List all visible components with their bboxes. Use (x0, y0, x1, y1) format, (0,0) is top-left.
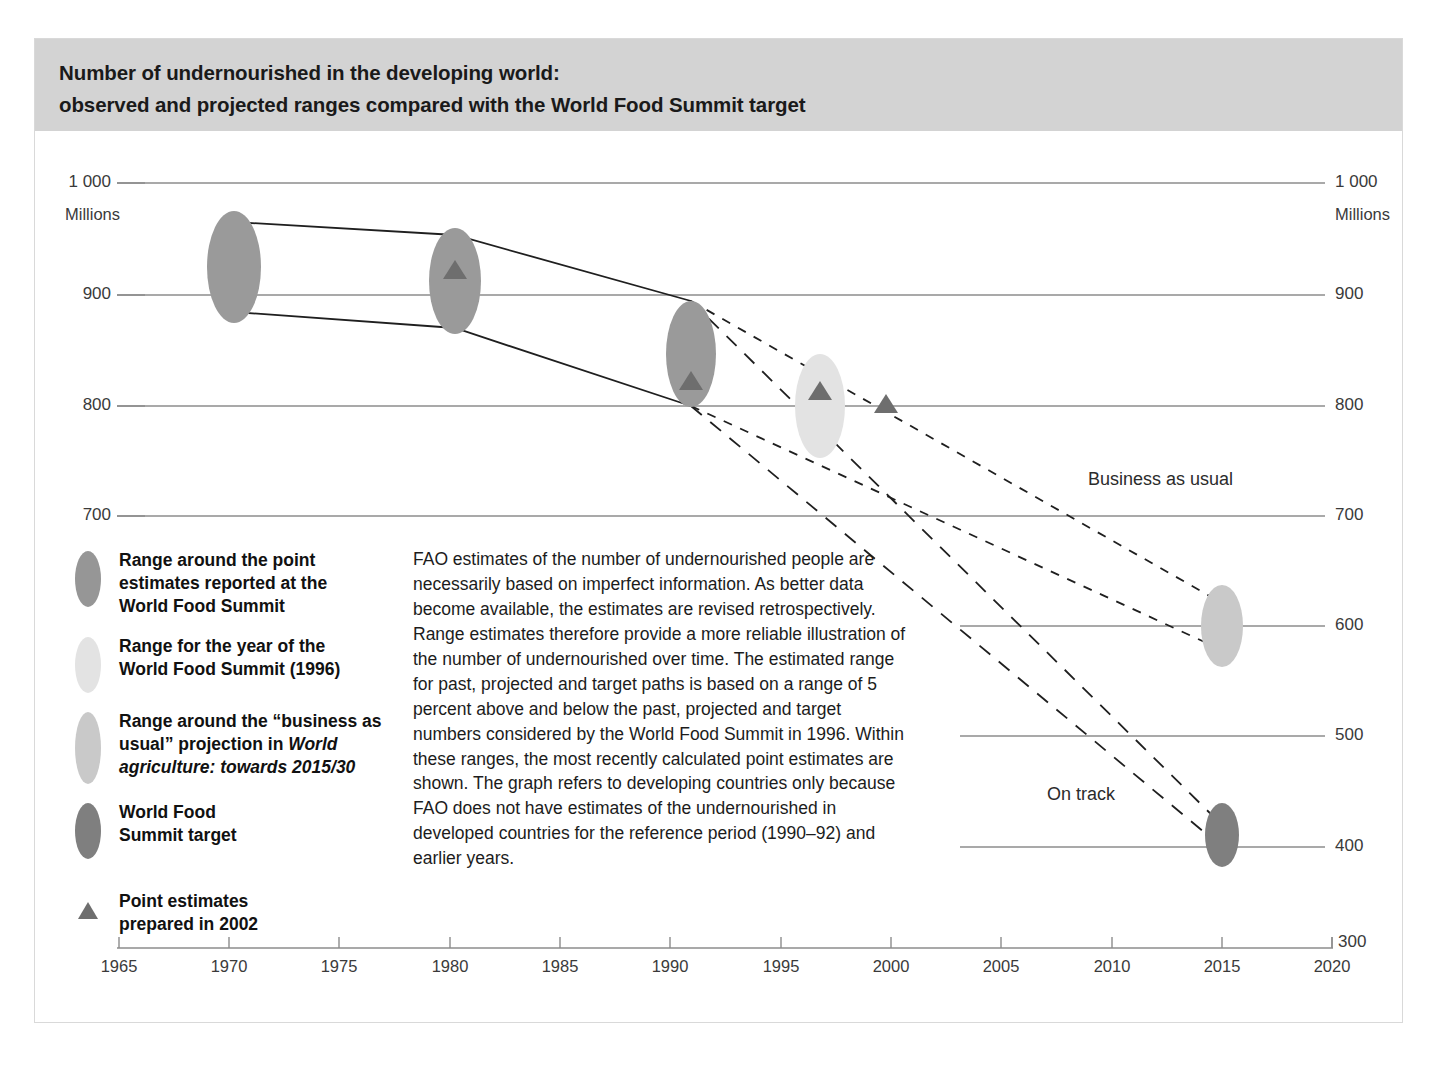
x-axis-label-1995: 1995 (746, 957, 816, 976)
chart-explanatory-paragraph: FAO estimates of the number of undernour… (413, 547, 913, 871)
range-ellipse-2015-business-as-usual (1201, 585, 1243, 667)
legend-item-world-food-summit-target: World Food Summit target (75, 801, 405, 859)
legend-item-range-wfs-year-1996: Range for the year of the World Food Sum… (75, 635, 405, 693)
legend-label-line: Range around the point (119, 549, 327, 572)
x-axis-label-2020: 2020 (1297, 957, 1367, 976)
y-axis-label-right-400: 400 (1335, 836, 1363, 856)
y-axis-label-right-800: 800 (1335, 395, 1363, 415)
chart-figure: Number of undernourished in the developi… (34, 38, 1403, 1023)
legend-label-line: Point estimates (119, 890, 258, 913)
x-axis-label-1980: 1980 (415, 957, 485, 976)
y-axis-unit-left: Millions (65, 205, 120, 224)
legend-item-point-estimates-2002: Point estimates prepared in 2002 (75, 876, 405, 936)
x-axis-label-2005: 2005 (966, 957, 1036, 976)
legend-swatch-range-business-as-usual (75, 712, 101, 784)
annotation-on-track: On track (1047, 784, 1115, 805)
x-axis-label-2010: 2010 (1077, 957, 1147, 976)
legend-item-range-wfs-point-estimates: Range around the point estimates reporte… (75, 549, 405, 618)
left-tick-leaders (117, 183, 145, 516)
y-axis-label-right-300: 300 (1338, 932, 1366, 952)
y-axis-label-left-700: 700 (53, 505, 111, 525)
legend-label-line: estimates reported at the (119, 572, 327, 595)
chart-explanatory-text: FAO estimates of the number of undernour… (413, 547, 913, 871)
point-estimate-marker-1999 (874, 394, 898, 413)
range-ellipse-1996-wfs-year (795, 354, 845, 458)
range-ellipse-1991 (666, 301, 716, 407)
x-axis-label-1990: 1990 (635, 957, 705, 976)
legend-label-line: World Food (119, 801, 237, 824)
triangle-marker-icon (75, 878, 101, 934)
legend-label-point-estimates-2002: Point estimates prepared in 2002 (119, 876, 258, 936)
x-axis-label-1975: 1975 (304, 957, 374, 976)
x-axis-label-2000: 2000 (856, 957, 926, 976)
range-ellipse-1980 (429, 228, 481, 334)
annotation-business-as-usual: Business as usual (1088, 469, 1233, 490)
x-axis-label-1970: 1970 (194, 957, 264, 976)
x-axis-label-2015: 2015 (1187, 957, 1257, 976)
legend-item-range-business-as-usual: Range around the “business as usual” pro… (75, 710, 405, 784)
chart-legend: Range around the point estimates reporte… (75, 549, 405, 953)
legend-label-range-wfs-year-1996: Range for the year of the World Food Sum… (119, 635, 340, 681)
range-ellipse-2015-wfs-target (1205, 803, 1239, 867)
y-axis-label-left-1000: 1 000 (53, 172, 111, 192)
y-axis-label-right-600: 600 (1335, 615, 1363, 635)
legend-label-line: World Food Summit (119, 595, 327, 618)
y-axis-label-right-1000: 1 000 (1335, 172, 1378, 192)
legend-swatch-world-food-summit-target (75, 803, 101, 859)
legend-swatch-range-wfs-point-estimates (75, 551, 101, 607)
y-axis-label-left-800: 800 (53, 395, 111, 415)
legend-label-line: Summit target (119, 824, 237, 847)
x-axis-label-1985: 1985 (525, 957, 595, 976)
y-axis-unit-right: Millions (1335, 205, 1390, 224)
range-ellipse-1970 (207, 211, 261, 323)
y-axis-label-right-700: 700 (1335, 505, 1363, 525)
legend-swatch-range-wfs-year-1996 (75, 637, 101, 693)
legend-label-line: prepared in 2002 (119, 913, 258, 936)
x-axis-label-1965: 1965 (84, 957, 154, 976)
legend-label-line: Range for the year of the (119, 635, 340, 658)
legend-label-range-wfs-point-estimates: Range around the point estimates reporte… (119, 549, 327, 618)
y-axis-label-right-500: 500 (1335, 725, 1363, 745)
y-axis-label-left-900: 900 (53, 284, 111, 304)
legend-label-world-food-summit-target: World Food Summit target (119, 801, 237, 847)
y-axis-label-right-900: 900 (1335, 284, 1363, 304)
legend-label-line: World Food Summit (1996) (119, 658, 340, 681)
legend-label-range-business-as-usual: Range around the “business as usual” pro… (119, 710, 405, 779)
